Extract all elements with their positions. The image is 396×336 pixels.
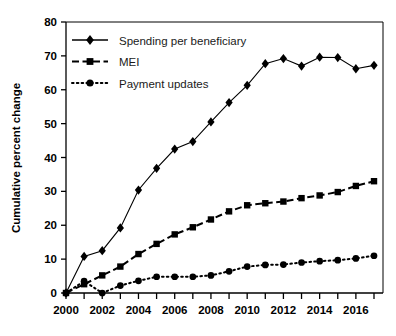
chart-container: 01020304050607080 2000200220042006200820…: [0, 0, 396, 336]
data-point: [298, 259, 305, 266]
data-point: [226, 268, 233, 275]
x-tick-label: 2010: [234, 304, 260, 316]
x-tick-label: 2014: [307, 304, 333, 316]
y-tick-label: 10: [44, 253, 57, 265]
data-point: [81, 278, 88, 285]
y-tick-label: 80: [44, 16, 57, 28]
data-point: [117, 263, 123, 269]
x-tick-label: 2006: [162, 304, 188, 316]
data-point: [262, 262, 269, 269]
data-point: [298, 195, 304, 201]
y-tick-label: 0: [51, 287, 57, 299]
data-point: [172, 231, 178, 237]
data-point: [316, 192, 322, 198]
data-point: [208, 216, 214, 222]
data-point: [190, 224, 196, 230]
legend-label: MEI: [119, 56, 139, 68]
legend-label: Spending per beneficiary: [119, 35, 246, 47]
data-point: [117, 282, 124, 289]
data-point: [226, 208, 232, 214]
x-tick-label: 2008: [198, 304, 224, 316]
data-point: [99, 272, 105, 278]
data-point: [99, 290, 106, 297]
data-point: [262, 200, 268, 206]
chart-background: [0, 0, 396, 336]
data-point: [244, 263, 251, 270]
y-tick-label: 60: [44, 84, 57, 96]
data-point: [171, 273, 178, 280]
data-point: [135, 251, 141, 257]
data-point: [371, 178, 377, 184]
y-tick-label: 70: [44, 50, 57, 62]
data-point: [371, 252, 378, 259]
x-tick-label: 2000: [53, 304, 79, 316]
y-axis-title: Cumulative percent change: [10, 83, 22, 233]
y-tick-label: 40: [44, 152, 57, 164]
data-point: [335, 189, 341, 195]
data-point: [280, 198, 286, 204]
y-tick-label: 50: [44, 118, 57, 130]
data-point: [244, 202, 250, 208]
y-tick-label: 30: [44, 185, 57, 197]
legend-marker: [86, 79, 93, 86]
data-point: [208, 272, 215, 279]
legend-label: Payment updates: [119, 78, 209, 90]
data-point: [153, 273, 160, 280]
data-point: [135, 277, 142, 284]
data-point: [353, 255, 360, 262]
data-point: [189, 273, 196, 280]
legend-marker: [87, 58, 94, 65]
x-tick-label: 2002: [89, 304, 115, 316]
data-point: [334, 257, 341, 264]
line-chart: 01020304050607080 2000200220042006200820…: [0, 0, 396, 336]
x-tick-label: 2004: [126, 304, 152, 316]
data-point: [63, 290, 70, 297]
x-tick-label: 2016: [343, 304, 369, 316]
data-point: [153, 241, 159, 247]
data-point: [353, 183, 359, 189]
y-tick-label: 20: [44, 219, 57, 231]
data-point: [316, 258, 323, 265]
x-tick-label: 2012: [271, 304, 297, 316]
data-point: [280, 261, 287, 268]
